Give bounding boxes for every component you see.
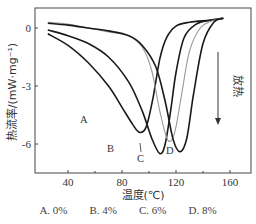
legend-item-d: D. 8% [189, 204, 217, 222]
x-axis: 40 80 120 160 温度(℃) [63, 170, 239, 202]
dsc-chart: 0 -3 -6 热流率/(mW·mg⁻¹) 40 80 120 160 温度(℃… [0, 0, 256, 204]
curve-label-d: D [166, 145, 174, 156]
y-tick-label: -3 [22, 80, 32, 92]
plot-frame [35, 8, 251, 173]
x-tick-label: 160 [222, 176, 239, 188]
curve-c [48, 18, 224, 141]
curves [48, 18, 224, 153]
x-tick-label: 80 [117, 176, 129, 188]
exotherm-annotation: 放热 [215, 52, 245, 125]
x-axis-title: 温度(℃) [122, 188, 165, 202]
y-axis: 0 -3 -6 热流率/(mW·mg⁻¹) [5, 22, 38, 150]
x-tick-label: 40 [63, 176, 75, 188]
y-tick-label: 0 [26, 22, 32, 34]
y-tick-label: -6 [22, 138, 32, 150]
legend-item-c: C. 6% [139, 204, 167, 222]
legend-item-b: B. 4% [90, 204, 118, 222]
legend-item-a: A. 0% [39, 204, 67, 222]
curve-label-a: A [80, 114, 88, 125]
arrow-head-icon [215, 118, 221, 125]
curve-label-c: C [137, 153, 144, 164]
legend: A. 0% B. 4% C. 6% D. 8% [0, 204, 256, 222]
curve-c-pointer [140, 143, 141, 152]
curve-label-b: B [107, 143, 114, 154]
y-axis-title: 热流率/(mW·mg⁻¹) [5, 43, 19, 141]
x-tick-label: 120 [168, 176, 185, 188]
exotherm-label: 放热 [231, 75, 245, 97]
